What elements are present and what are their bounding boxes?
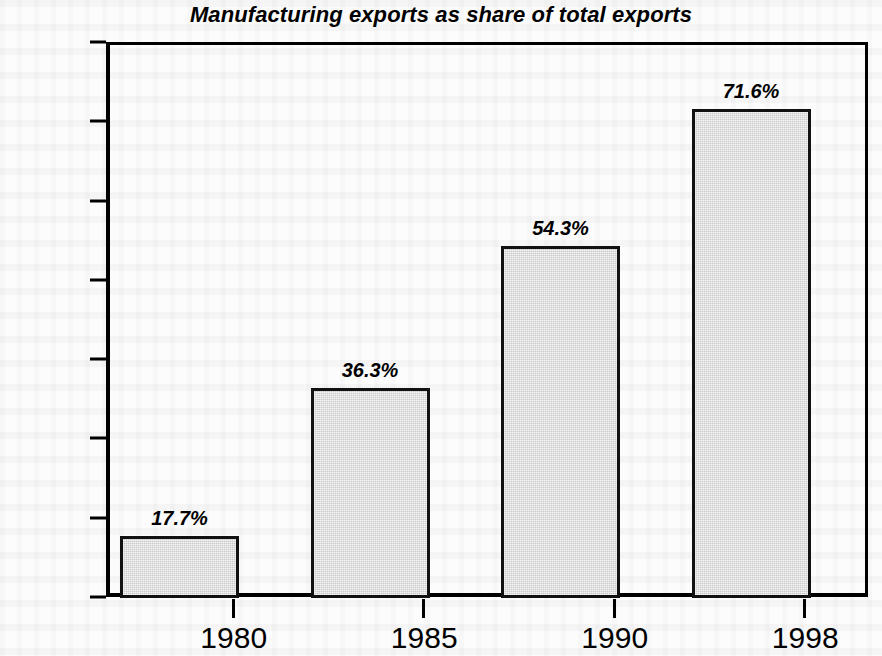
y-axis-tick-mark [90, 596, 106, 599]
y-axis-tick-mark [90, 278, 106, 281]
chart-figure: Manufacturing exports as share of total … [0, 0, 882, 656]
x-axis-tick-label: 1990 [581, 623, 648, 653]
plot-content: 17.7%36.3%54.3%71.6% [106, 42, 868, 597]
bar-value-label: 71.6% [723, 80, 780, 103]
y-axis-tick-mark [90, 199, 106, 202]
x-axis-tick-label: 1998 [772, 623, 839, 653]
x-axis-tick-mark [613, 599, 616, 618]
y-axis-tick-mark [90, 358, 106, 361]
x-axis-tick-mark [232, 599, 235, 618]
x-axis-tick-mark [422, 599, 425, 618]
bar [311, 388, 430, 598]
bar-value-label: 36.3% [342, 359, 399, 382]
bar-value-label: 17.7% [151, 507, 208, 530]
x-axis-tick-mark [803, 599, 806, 618]
y-axis-tick-mark [90, 437, 106, 440]
chart-title: Manufacturing exports as share of total … [0, 2, 882, 28]
bar-value-label: 54.3% [532, 217, 589, 240]
bar [501, 246, 620, 598]
y-axis-tick-mark [90, 120, 106, 123]
bar [120, 536, 239, 598]
y-axis-tick-mark [90, 516, 106, 519]
y-axis-tick-mark [90, 41, 106, 44]
x-axis-tick-label: 1985 [391, 623, 458, 653]
x-axis-tick-label: 1980 [200, 623, 267, 653]
bar [692, 109, 811, 598]
